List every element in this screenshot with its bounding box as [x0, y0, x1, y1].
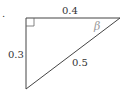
triangle-diagram: . 0.4 0.3 0.5 β — [0, 0, 127, 109]
bullet-marker: . — [2, 8, 5, 19]
side-left-label: 0.3 — [8, 49, 24, 60]
right-triangle — [26, 18, 120, 89]
right-angle-marker — [26, 18, 34, 26]
angle-beta-label: β — [93, 20, 100, 33]
side-top-label: 0.4 — [62, 5, 78, 16]
hypotenuse-label: 0.5 — [72, 57, 88, 68]
